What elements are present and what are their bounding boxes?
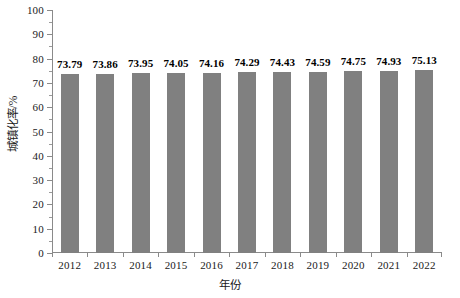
y-tick-label: 70: [33, 77, 44, 89]
y-tick-label: 0: [38, 247, 44, 259]
x-tick-mark: [265, 253, 266, 257]
y-tick-label: 30: [33, 174, 44, 186]
bar-value-label: 74.75: [341, 55, 366, 67]
bar: [203, 73, 221, 253]
y-tick-label: 80: [33, 53, 44, 65]
y-tick-label: 40: [33, 150, 44, 162]
x-tick-mark: [87, 253, 88, 257]
x-tick-mark: [158, 253, 159, 257]
x-axis-ticks: 2012201320142015201620172018201920202021…: [52, 253, 442, 277]
x-tick-label: 2014: [129, 259, 152, 271]
x-tick-label: 2012: [58, 259, 81, 271]
x-tick-mark: [52, 253, 53, 257]
urbanization-rate-bar-chart: 0102030405060708090100 73.7973.8673.9574…: [0, 0, 460, 298]
x-tick-mark: [441, 253, 442, 257]
x-tick-label: 2019: [307, 259, 330, 271]
x-tick-mark: [336, 253, 337, 257]
bar: [96, 74, 114, 253]
bar-value-label: 73.86: [93, 58, 118, 70]
bar: [380, 71, 398, 253]
x-tick-label: 2016: [200, 259, 223, 271]
x-tick-mark: [300, 253, 301, 257]
y-axis-title: 城镇化率/%: [4, 76, 20, 172]
bar: [273, 72, 291, 253]
x-tick-mark: [194, 253, 195, 257]
bar-value-label: 74.05: [163, 57, 188, 69]
y-tick-label: 90: [33, 28, 44, 40]
x-tick-label: 2013: [94, 259, 117, 271]
bar-value-label: 74.59: [305, 56, 330, 68]
bar: [415, 70, 433, 253]
plot-area: 73.7973.8673.9574.0574.1674.2974.4374.59…: [52, 10, 442, 253]
x-axis-title: 年份: [0, 276, 460, 292]
x-tick-mark: [371, 253, 372, 257]
bar-value-label: 74.43: [270, 56, 295, 68]
bar: [344, 71, 362, 253]
bar-value-label: 73.79: [57, 58, 82, 70]
x-tick-label: 2017: [236, 259, 259, 271]
bar-value-label: 75.13: [412, 54, 437, 66]
x-tick-label: 2022: [413, 259, 436, 271]
x-tick-label: 2021: [377, 259, 400, 271]
bar: [167, 73, 185, 253]
bar-value-label: 74.93: [376, 55, 401, 67]
y-tick-label: 10: [33, 223, 44, 235]
bar-value-label: 74.29: [234, 56, 259, 68]
y-tick-label: 50: [33, 126, 44, 138]
bar: [132, 73, 150, 253]
y-tick-label: 20: [33, 198, 44, 210]
y-tick-label: 60: [33, 101, 44, 113]
bar: [238, 72, 256, 253]
x-tick-mark: [407, 253, 408, 257]
bar: [309, 72, 327, 253]
bar-value-label: 73.95: [128, 57, 153, 69]
y-tick-label: 100: [27, 4, 44, 16]
bar-value-label: 74.16: [199, 57, 224, 69]
bar: [61, 74, 79, 253]
x-tick-label: 2020: [342, 259, 365, 271]
x-tick-label: 2018: [271, 259, 294, 271]
x-tick-mark: [229, 253, 230, 257]
x-tick-mark: [123, 253, 124, 257]
x-tick-label: 2015: [165, 259, 188, 271]
